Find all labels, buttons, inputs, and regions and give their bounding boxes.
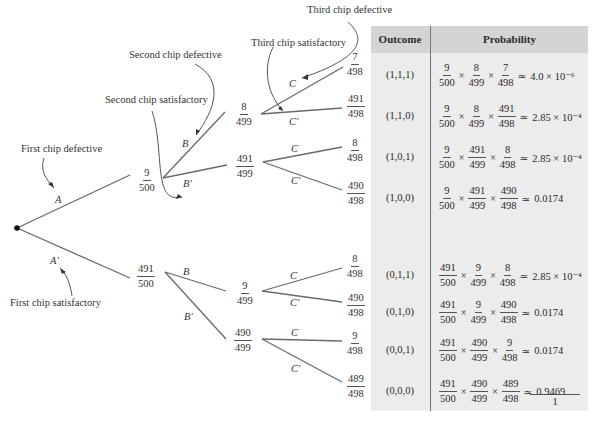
event-B-upper: B bbox=[182, 138, 188, 149]
prob-490-498: 490498 bbox=[347, 180, 365, 207]
outcome-cell: (0,1,0) bbox=[371, 297, 429, 327]
probability-result: 2.85 × 10⁻⁴ bbox=[532, 152, 581, 164]
outcome-cell: (1,1,1) bbox=[371, 60, 429, 90]
fraction: 490498 bbox=[500, 185, 518, 212]
fraction: 9500 bbox=[439, 103, 455, 130]
fraction: 490499 bbox=[470, 337, 488, 364]
approx-sign: ≃ bbox=[520, 111, 529, 123]
probability-result: 2.85 × 10⁻⁴ bbox=[532, 270, 581, 282]
outcome-cell: (1,1,0) bbox=[371, 101, 429, 131]
times-sign: × bbox=[488, 70, 494, 81]
event-B-lower: B bbox=[183, 266, 189, 277]
prob-7-498: 7498 bbox=[347, 51, 363, 78]
table-row: (1,0,0)9500×491499×490498≃0.0174 bbox=[371, 183, 588, 213]
times-sign: × bbox=[461, 345, 467, 356]
fraction: 8499 bbox=[468, 103, 484, 130]
probability-cell: 9500×8499×7498≃4.0 × 10⁻⁶ bbox=[439, 62, 574, 89]
outcome-probability-table: Outcome Probability (1,1,1)9500×8499×749… bbox=[371, 26, 588, 411]
probability-result: 0.0174 bbox=[534, 345, 563, 356]
times-sign: × bbox=[459, 152, 465, 163]
event-C-prime-1: C′ bbox=[289, 116, 298, 127]
prob-491-498: 491498 bbox=[347, 93, 365, 120]
event-A: A bbox=[55, 194, 61, 205]
fraction: 491500 bbox=[439, 299, 457, 326]
label-second-chip-satisfactory: Second chip satisfactory bbox=[105, 94, 208, 105]
prob-9-498: 9498 bbox=[347, 330, 363, 357]
times-sign: × bbox=[461, 270, 467, 281]
event-C-4: C bbox=[291, 327, 298, 338]
probability-result: 2.85 × 10⁻⁴ bbox=[532, 111, 581, 123]
fraction: 9499 bbox=[470, 299, 486, 326]
prob-8-498-b: 8498 bbox=[347, 253, 363, 280]
outcome-cell: (0,0,0) bbox=[371, 376, 429, 406]
times-sign: × bbox=[459, 70, 465, 81]
fraction: 490498 bbox=[500, 299, 518, 326]
fraction: 8498 bbox=[500, 262, 516, 289]
outcome-cell: (0,1,1) bbox=[371, 260, 429, 290]
fraction: 491500 bbox=[439, 262, 457, 289]
table-header: Outcome Probability bbox=[371, 26, 588, 53]
event-C-1: C bbox=[289, 78, 296, 89]
fraction: 490499 bbox=[470, 378, 488, 405]
sum-total: 1 bbox=[530, 396, 580, 407]
probability-result: 4.0 × 10⁻⁶ bbox=[530, 70, 574, 82]
table-row: (1,0,1)9500×491499×8498≃2.85 × 10⁻⁴ bbox=[371, 142, 588, 172]
fraction: 489498 bbox=[502, 378, 520, 405]
probability-cell: 9500×491499×8498≃2.85 × 10⁻⁴ bbox=[439, 144, 582, 171]
event-A-prime: A′ bbox=[50, 255, 59, 266]
times-sign: × bbox=[459, 193, 465, 204]
fraction: 7498 bbox=[498, 62, 514, 89]
probability-tree bbox=[0, 0, 370, 422]
prob-8-498: 8498 bbox=[347, 137, 363, 164]
event-C-prime-4: C′ bbox=[291, 363, 300, 374]
times-sign: × bbox=[488, 111, 494, 122]
approx-sign: ≃ bbox=[522, 345, 531, 357]
prob-8-499: 8499 bbox=[236, 101, 252, 128]
label-first-chip-defective: First chip defective bbox=[21, 143, 102, 154]
fraction: 9499 bbox=[470, 262, 486, 289]
probability-cell: 491500×9499×8498≃2.85 × 10⁻⁴ bbox=[439, 262, 582, 289]
prob-489-498: 489498 bbox=[347, 373, 365, 400]
probability-result: 0.0174 bbox=[534, 307, 563, 318]
outcome-cell: (1,0,0) bbox=[371, 183, 429, 213]
approx-sign: ≃ bbox=[522, 193, 531, 205]
label-third-chip-defective: Third chip defective bbox=[307, 4, 392, 15]
probability-cell: 9500×8499×491498≃2.85 × 10⁻⁴ bbox=[439, 103, 582, 130]
fraction: 491500 bbox=[439, 378, 457, 405]
times-sign: × bbox=[492, 345, 498, 356]
prob-9-500: 9500 bbox=[139, 167, 155, 194]
fraction: 8498 bbox=[500, 144, 516, 171]
times-sign: × bbox=[490, 307, 496, 318]
table-row: (1,1,0)9500×8499×491498≃2.85 × 10⁻⁴ bbox=[371, 101, 588, 131]
times-sign: × bbox=[461, 386, 467, 397]
event-C-2: C bbox=[291, 143, 298, 154]
fraction: 9500 bbox=[439, 144, 455, 171]
times-sign: × bbox=[490, 193, 496, 204]
prob-490-499: 490499 bbox=[234, 327, 252, 354]
probability-result: 0.0174 bbox=[534, 193, 563, 204]
root-node bbox=[14, 225, 20, 231]
probability-cell: 491500×490499×9498≃0.0174 bbox=[439, 337, 563, 364]
label-first-chip-satisfactory: First chip satisfactory bbox=[10, 297, 101, 308]
fraction: 491499 bbox=[468, 144, 486, 171]
times-sign: × bbox=[461, 307, 467, 318]
outcome-cell: (0,0,1) bbox=[371, 335, 429, 365]
approx-sign: ≃ bbox=[520, 270, 529, 282]
fraction: 9500 bbox=[439, 185, 455, 212]
prob-491-500: 491500 bbox=[137, 263, 155, 290]
fraction: 8499 bbox=[468, 62, 484, 89]
table-row: (0,1,0)491500×9499×490498≃0.0174 bbox=[371, 297, 588, 327]
times-sign: × bbox=[459, 111, 465, 122]
fraction: 491499 bbox=[468, 185, 486, 212]
event-B-prime-lower: B′ bbox=[184, 311, 193, 322]
prob-490-498-b: 490498 bbox=[347, 292, 365, 319]
sum-line bbox=[530, 394, 580, 395]
approx-sign: ≃ bbox=[518, 70, 527, 82]
header-probability: Probability bbox=[431, 26, 588, 53]
approx-sign: ≃ bbox=[522, 307, 531, 319]
approx-sign: ≃ bbox=[520, 152, 529, 164]
outcome-cell: (1,0,1) bbox=[371, 142, 429, 172]
event-C-prime-2: C′ bbox=[291, 175, 300, 186]
fraction: 491498 bbox=[498, 103, 516, 130]
label-third-chip-satisfactory: Third chip satisfactory bbox=[251, 37, 346, 48]
